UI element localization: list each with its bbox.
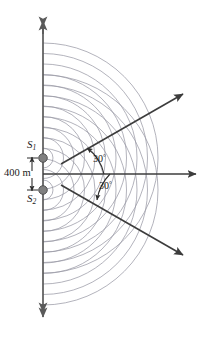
source-2-label: S2 (27, 193, 36, 204)
angle-upper-degree-symbol: ° (103, 153, 106, 161)
source-dot-1 (39, 154, 48, 163)
source-1-symbol: S (27, 138, 33, 150)
wavefronts-source-1 (0, 43, 158, 273)
angle-lower-degree-symbol: ° (109, 180, 112, 188)
upper-ray-30deg (61, 94, 183, 164)
source-2-subscript: 2 (33, 197, 37, 206)
source-2-symbol: S (27, 192, 33, 204)
separation-label: 400 m (4, 168, 31, 179)
source-1-label: S1 (27, 139, 36, 150)
source-1-subscript: 1 (33, 143, 37, 152)
wavefronts-source-2 (0, 75, 158, 305)
angle-upper-value: 30 (93, 153, 103, 164)
angle-label-upper: 30° (93, 154, 106, 164)
wave-interference-figure: S1 S2 400 m 30° 30° (0, 0, 207, 337)
diagram-canvas (0, 0, 207, 337)
source-dot-2 (39, 186, 48, 195)
angle-lower-value: 30 (99, 180, 109, 191)
angle-label-lower: 30° (99, 181, 112, 191)
